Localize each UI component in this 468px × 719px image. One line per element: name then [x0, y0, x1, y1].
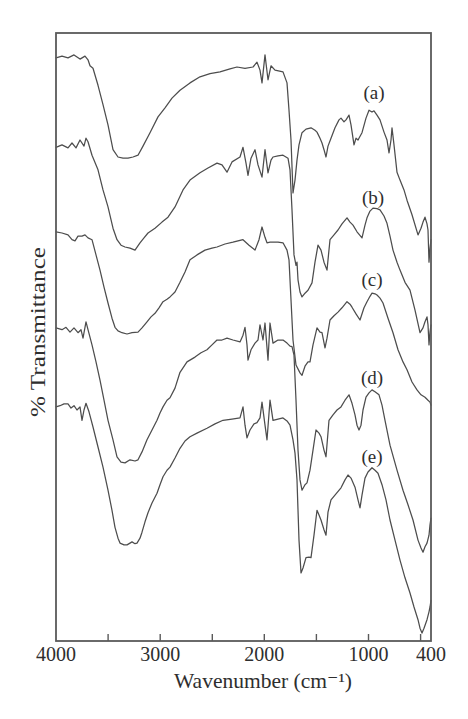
series-label-d: (d) [361, 367, 383, 389]
x-tick-label: 1000 [349, 643, 389, 665]
chart-background [0, 0, 468, 719]
ftir-spectra-chart: 4000300020001000400 Wavenumber (cm⁻¹) % … [0, 0, 468, 719]
series-label-b: (b) [362, 187, 384, 209]
series-label-e: (e) [361, 446, 382, 468]
x-axis-label: Wavenumber (cm⁻¹) [174, 669, 352, 693]
series-label-c: (c) [361, 269, 382, 291]
x-tick-label: 2000 [244, 643, 284, 665]
x-tick-label: 3000 [140, 643, 180, 665]
x-tick-label: 400 [416, 643, 446, 665]
x-tick-label: 4000 [36, 643, 76, 665]
series-label-a: (a) [363, 82, 384, 104]
y-axis-label: % Transmittance [26, 247, 50, 417]
